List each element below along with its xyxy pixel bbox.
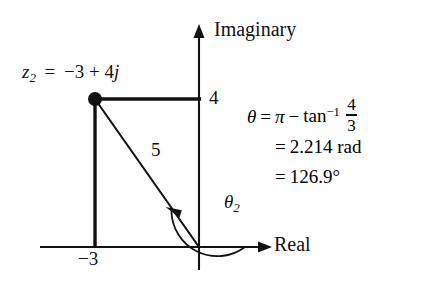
- equation-equals-2: =: [271, 137, 290, 156]
- point-label-value: −3 + 4j: [64, 61, 119, 82]
- equation-block: θ = π − tan−1 4 3 = 2.214 rad = 126.9°: [247, 101, 361, 191]
- axis-label-real: Real: [274, 234, 311, 254]
- equation-minus-operator: −: [285, 107, 304, 126]
- angle-arc-arrowhead: [166, 207, 182, 217]
- point-label-subscript: 2: [29, 70, 35, 85]
- equation-degree-value: 126.9°: [290, 167, 340, 186]
- equation-theta-symbol: θ: [247, 107, 256, 126]
- imaginary-axis-arrowhead: [194, 24, 205, 38]
- angle-arc-path: [171, 211, 245, 256]
- axis-label-imaginary: Imaginary: [214, 19, 296, 39]
- equation-fraction-4-over-3: 4 3: [346, 96, 357, 133]
- angle-label-subscript: 2: [233, 200, 239, 215]
- equation-line-1: θ = π − tan−1 4 3: [247, 101, 361, 131]
- point-label-z2: z2 = −3 + 4j: [22, 62, 119, 85]
- equation-pi-symbol: π: [275, 107, 285, 126]
- point-marker-z2: [88, 92, 102, 106]
- angle-label-theta2: θ2: [224, 192, 240, 215]
- magnitude-label-5: 5: [151, 140, 161, 159]
- point-label-equals: =: [41, 61, 60, 82]
- equation-equals-3: =: [271, 167, 290, 186]
- magnitude-vector: [95, 99, 199, 247]
- tick-label-imaginary-4: 4: [209, 88, 219, 107]
- fraction-denominator: 3: [346, 117, 357, 134]
- real-axis-arrowhead: [258, 242, 272, 253]
- equation-inverse-exponent: −1: [327, 105, 340, 119]
- equation-line-3: = 126.9°: [247, 161, 361, 191]
- equation-equals-1: =: [256, 107, 275, 126]
- imaginary-axis: [194, 24, 205, 270]
- equation-arctan-function: tan−1: [303, 106, 340, 125]
- fraction-numerator: 4: [346, 96, 357, 113]
- equation-tan-text: tan: [303, 106, 326, 127]
- equation-line-2: = 2.214 rad: [247, 131, 361, 161]
- angle-label-symbol: θ: [224, 191, 233, 212]
- tick-label-real-neg3: −3: [78, 249, 98, 268]
- equation-radian-value: 2.214 rad: [290, 137, 362, 156]
